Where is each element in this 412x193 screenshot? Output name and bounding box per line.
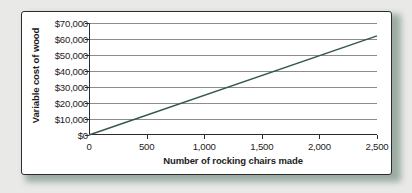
x-tick-mark (319, 135, 320, 139)
y-tick-mark (85, 135, 89, 136)
x-tick-mark (204, 135, 205, 139)
y-axis-tick-labels: $0$10,000$20,000$30,000$40,000$50,000$60… (32, 12, 88, 176)
data-series-line (89, 23, 377, 135)
x-tick-label: 2,000 (308, 141, 331, 152)
chart-figure-frame: Variable cost of wood $0$10,000$20,000$3… (21, 11, 392, 175)
y-tick-label: $0 (32, 130, 88, 141)
x-tick-label: 1,000 (193, 141, 216, 152)
x-tick-mark (262, 135, 263, 139)
y-tick-label: $50,000 (32, 50, 88, 61)
x-tick-label: 0 (86, 141, 91, 152)
y-tick-label: $60,000 (32, 34, 88, 45)
x-tick-label: 500 (139, 141, 154, 152)
x-tick-mark (377, 135, 378, 139)
series-line-variable-cost-of-wood (89, 36, 377, 135)
x-tick-label: 1,500 (250, 141, 273, 152)
y-tick-label: $30,000 (32, 82, 88, 93)
chart-canvas: Variable cost of wood $0$10,000$20,000$3… (22, 12, 393, 176)
x-axis-title: Number of rocking chairs made (89, 155, 377, 166)
x-tick-label: 2,500 (365, 141, 388, 152)
x-tick-mark (147, 135, 148, 139)
y-tick-label: $10,000 (32, 114, 88, 125)
y-tick-label: $70,000 (32, 18, 88, 29)
plot-area: 05001,0001,5002,0002,500 (89, 23, 377, 135)
y-tick-label: $40,000 (32, 66, 88, 77)
y-tick-label: $20,000 (32, 98, 88, 109)
